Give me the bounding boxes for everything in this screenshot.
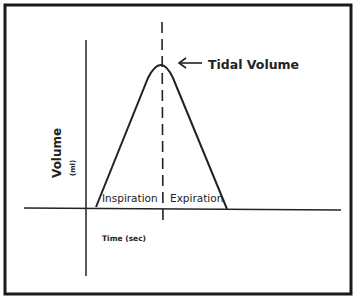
x-axis — [24, 208, 341, 210]
tidal-volume-label: Tidal Volume — [208, 57, 299, 72]
expiration-label: Expiration — [170, 192, 223, 204]
x-axis-label: Time (sec) — [102, 234, 146, 243]
y-axis-label: Volume — [50, 128, 64, 178]
inspiration-label: Inspiration — [102, 192, 158, 204]
tidal-volume-curve — [96, 65, 227, 209]
y-axis-unit: (ml) — [69, 160, 77, 176]
tidal-volume-diagram: Tidal Volume Volume (ml) Inspiration Exp… — [0, 0, 358, 305]
peak-divider-dashed-line — [162, 22, 163, 226]
